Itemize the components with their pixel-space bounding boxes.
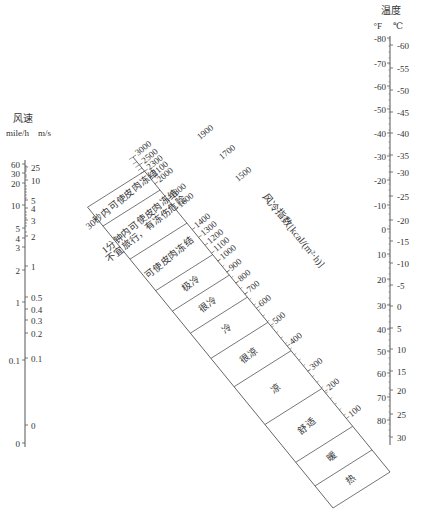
temperature-title: 温度: [381, 4, 401, 16]
zone-label: 凉: [268, 380, 283, 395]
wind-chill-tick: [133, 155, 136, 157]
scale-minor-tick: [317, 381, 319, 382]
zone-divider: [315, 450, 372, 486]
wind-right-tick-label: 0.2: [31, 329, 42, 339]
scale-minor-tick: [133, 162, 137, 165]
temp-f-tick-label: 60: [377, 369, 387, 379]
temp-f-tick-label: 0: [382, 225, 387, 235]
temp-unit-f: °F: [373, 21, 382, 31]
wind-chill-nomogram: 风速mile/hm/s60302010543210.102510543210.5…: [0, 0, 421, 517]
wind-chill-tick: [205, 243, 208, 245]
scale-minor-tick: [135, 165, 139, 168]
temp-c-tick-label: 10: [397, 345, 407, 355]
scale-minor-tick: [321, 386, 323, 387]
wind-unit-mph: mile/h: [6, 128, 29, 138]
scale-minor-tick: [330, 397, 332, 398]
temp-f-tick-label: -80: [374, 34, 386, 44]
wind-chill-axis-title: 风冷指数[kcal/(m²·h)]: [260, 191, 328, 270]
scale-minor-tick: [254, 304, 256, 305]
wind-chill-tick: [287, 344, 290, 346]
wind-right-tick-label: 25: [31, 163, 41, 173]
scale-minor-tick: [231, 276, 233, 277]
wind-left-tick-label: 1: [16, 298, 21, 308]
band-bottom-edge: [333, 472, 390, 508]
temp-f-tick-label: 20: [377, 275, 387, 285]
scale-minor-tick: [249, 298, 251, 299]
zone-label: 极冷: [179, 273, 201, 294]
scale-minor-tick: [312, 375, 314, 376]
scale-minor-tick: [303, 364, 305, 365]
zone-label: 冷: [220, 321, 235, 336]
wind-right-tick-label: 3: [31, 216, 36, 226]
temp-c-tick-label: -50: [397, 86, 409, 96]
wind-left-tick-label: 10: [11, 201, 21, 211]
wind-left-tick-label: 3: [16, 243, 21, 253]
scale-minor-tick: [339, 408, 341, 409]
scale-minor-tick: [218, 260, 220, 261]
wind-right-tick-label: 0: [31, 421, 36, 431]
temp-c-tick-label: -15: [397, 237, 409, 247]
wind-chill-tick: [139, 163, 142, 165]
wind-right-tick-label: 0.1: [31, 354, 42, 364]
wind-left-tick-label: 5: [16, 224, 21, 234]
temp-f-tick-label: -10: [374, 201, 386, 211]
scale-minor-tick: [294, 353, 296, 354]
scale-minor-tick: [326, 392, 328, 393]
zone-label: 暖: [324, 449, 339, 464]
temp-c-tick-label: -45: [397, 108, 409, 118]
zone-divider: [190, 297, 247, 333]
temp-f-tick-label: -40: [374, 129, 386, 139]
wind-chill-tick: [270, 324, 273, 326]
temp-c-tick-label: 15: [397, 367, 407, 377]
zone-label: 可使皮肉冻结: [142, 234, 195, 280]
temp-f-tick-label: -70: [374, 59, 386, 69]
temp-c-tick-label: 0: [397, 302, 402, 312]
scale-minor-tick: [272, 326, 274, 327]
scale-minor-tick: [299, 359, 301, 360]
temp-f-tick-label: 50: [377, 347, 387, 357]
wind-left-tick-label: 0: [16, 439, 21, 449]
temp-c-tick-label: -30: [397, 168, 409, 178]
scale-minor-tick: [335, 403, 337, 404]
temp-f-tick-label: -60: [374, 82, 386, 92]
scale-minor-tick: [263, 315, 265, 316]
wind-chill-tick: [256, 306, 259, 308]
wind-chill-tick: [211, 251, 214, 253]
temp-c-tick-label: 30: [397, 433, 407, 443]
temp-c-tick-label: -55: [397, 64, 409, 74]
scale-minor-tick: [285, 342, 287, 343]
scale-minor-tick: [281, 337, 283, 338]
temp-c-tick-label: 25: [397, 410, 407, 420]
temp-c-tick-label: -25: [397, 192, 409, 202]
zone-label: 很冷: [196, 294, 218, 315]
scale-minor-tick: [344, 414, 346, 415]
wind-chill-side-label: 1900: [195, 122, 216, 141]
temp-c-tick-label: 5: [397, 324, 402, 334]
temp-c-tick-label: -10: [397, 259, 409, 269]
temp-c-tick-label: -20: [397, 216, 409, 226]
scale-minor-tick: [240, 287, 242, 288]
wind-chill-tick: [199, 235, 202, 237]
wind-left-tick-label: 20: [11, 179, 21, 189]
wind-chill-tick: [155, 182, 158, 184]
scale-minor-tick: [245, 293, 247, 294]
temp-c-tick-label: -60: [397, 41, 409, 51]
wind-right-tick-label: 1: [31, 262, 36, 272]
temp-f-tick-label: -50: [374, 105, 386, 115]
temp-f-tick-label: 10: [377, 250, 387, 260]
scale-minor-tick: [290, 348, 292, 349]
wind-chill-tick: [192, 227, 195, 229]
scale-minor-tick: [308, 370, 310, 371]
wind-right-tick-label: 0.3: [31, 316, 43, 326]
wind-unit-ms: m/s: [38, 128, 52, 138]
scale-minor-tick: [276, 331, 278, 332]
temp-c-tick-label: -5: [397, 281, 405, 291]
temp-f-tick-label: -30: [374, 152, 386, 162]
wind-left-tick-label: 2: [16, 266, 21, 276]
temp-c-tick-label: 20: [397, 386, 407, 396]
scale-minor-tick: [227, 271, 229, 272]
wind-chill-side-label: 1700: [217, 142, 238, 161]
wind-left-tick-label: 0.1: [9, 356, 20, 366]
scale-minor-tick: [129, 157, 133, 160]
wind-speed-title: 风速: [13, 113, 33, 124]
